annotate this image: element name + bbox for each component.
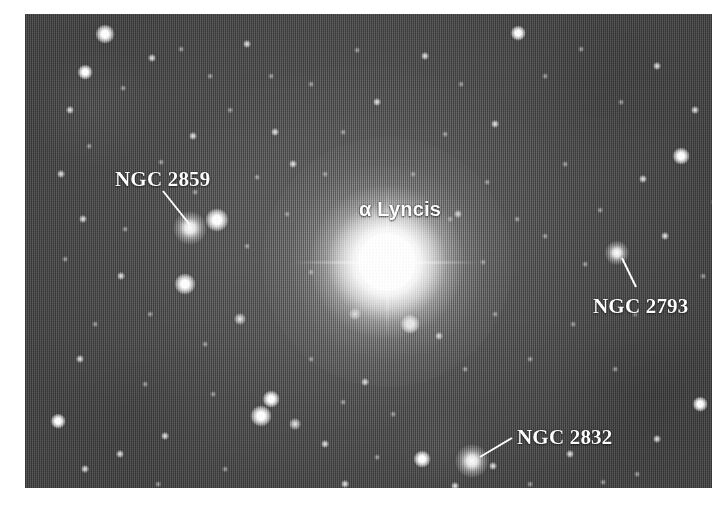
photographic-plate: NGC 2859 α Lyncis NGC 2793 NGC 2832 (25, 14, 712, 488)
astro-photo-figure: NGC 2859 α Lyncis NGC 2793 NGC 2832 (0, 0, 726, 508)
film-grain-texture (25, 14, 712, 488)
